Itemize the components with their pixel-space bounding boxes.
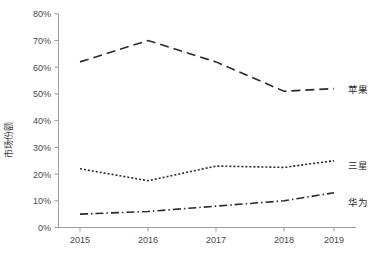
series-line-apple bbox=[80, 41, 334, 92]
y-axis-title: 市场份额 bbox=[3, 122, 14, 158]
chart-canvas: 0% 10% 20% 30% 40% 50% 60% 70% 80% 2015 … bbox=[0, 0, 372, 256]
series-line-samsung bbox=[80, 161, 334, 181]
legend-label-huawei: 华为 bbox=[348, 197, 368, 208]
series-line-huawei bbox=[80, 193, 334, 214]
y-tick-label-50: 50% bbox=[33, 89, 51, 99]
y-tick-label-70: 70% bbox=[33, 36, 51, 46]
legend-label-samsung: 三星 bbox=[348, 160, 368, 171]
x-tick-label-2016: 2016 bbox=[138, 235, 158, 245]
line-chart: 0% 10% 20% 30% 40% 50% 60% 70% 80% 2015 … bbox=[0, 0, 372, 256]
y-tick-label-80: 80% bbox=[33, 9, 51, 19]
x-tick-label-2019: 2019 bbox=[324, 235, 344, 245]
x-tick-label-2017: 2017 bbox=[206, 235, 226, 245]
y-tick-label-10: 10% bbox=[33, 196, 51, 206]
y-tick-label-0: 0% bbox=[38, 223, 51, 233]
x-tick-label-2015: 2015 bbox=[70, 235, 90, 245]
y-tick-label-40: 40% bbox=[33, 116, 51, 126]
y-tick-label-20: 20% bbox=[33, 170, 51, 180]
y-tick-label-60: 60% bbox=[33, 63, 51, 73]
legend-label-apple: 苹果 bbox=[348, 84, 368, 95]
x-tick-label-2018: 2018 bbox=[274, 235, 294, 245]
y-tick-label-30: 30% bbox=[33, 143, 51, 153]
